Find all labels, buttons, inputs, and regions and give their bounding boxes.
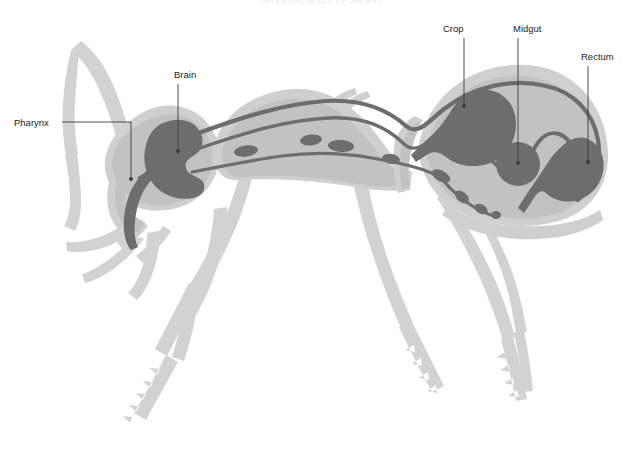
ant-anatomy-figure: INTERNAL BODY OF AN ANT bbox=[0, 0, 644, 458]
label-rectum: Rectum bbox=[581, 51, 614, 62]
mandible-upper-shape bbox=[66, 226, 131, 252]
antenna-tip-shape bbox=[64, 153, 81, 231]
ganglion-8-shape bbox=[491, 211, 501, 219]
label-midgut: Midgut bbox=[513, 23, 542, 34]
label-crop: Crop bbox=[443, 23, 464, 34]
leader-dot-crop bbox=[462, 104, 466, 108]
midleg-shape bbox=[352, 175, 413, 328]
leader-dot-pharynx bbox=[129, 177, 133, 181]
leader-dot-brain bbox=[176, 149, 180, 153]
ant-anatomy-illustration: PharynxBrainCropMidgutRectum bbox=[0, 0, 644, 458]
antenna-funiculus-shape bbox=[63, 42, 80, 156]
mandible-group bbox=[66, 226, 159, 300]
midleg-tarsus-shape bbox=[399, 322, 444, 393]
foreleg-second-shape bbox=[185, 207, 227, 315]
antenna-scape-shape bbox=[71, 41, 129, 140]
label-brain: Brain bbox=[174, 69, 196, 80]
foreleg-tarsus-shape bbox=[123, 355, 178, 423]
label-pharynx: Pharynx bbox=[14, 117, 49, 128]
leader-dot-rectum bbox=[586, 160, 590, 164]
leader-dot-midgut bbox=[516, 161, 520, 165]
